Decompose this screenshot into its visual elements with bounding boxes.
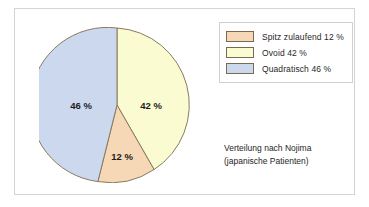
figure-frame: 42 % 12 % 46 % Spitz zulaufend 12 % Ovoi… — [14, 8, 355, 195]
pie-chart: 42 % 12 % 46 % — [39, 27, 195, 183]
legend-label-quadratisch: Quadratisch 46 % — [262, 64, 331, 74]
legend-label-spitz-zulaufend: Spitz zulaufend 12 % — [262, 32, 344, 42]
legend-swatch-icon-ovoid — [226, 47, 254, 58]
caption-line-1: Verteilung nach Nojima — [224, 142, 354, 155]
chart-legend: Spitz zulaufend 12 % Ovoid 42 % Quadrati… — [219, 22, 353, 83]
chart-caption: Verteilung nach Nojima (japanische Patie… — [224, 142, 354, 168]
pie-label-spitz-zulaufend: 12 % — [111, 151, 133, 162]
legend-item-ovoid: Ovoid 42 % — [226, 45, 347, 60]
legend-swatch-icon-quadratisch — [226, 63, 254, 74]
legend-item-quadratisch: Quadratisch 46 % — [226, 61, 347, 76]
legend-item-spitz-zulaufend: Spitz zulaufend 12 % — [226, 29, 347, 44]
pie-label-ovoid: 42 % — [140, 100, 162, 111]
caption-line-2: (japanische Patienten) — [224, 155, 354, 168]
legend-swatch-icon-spitz-zulaufend — [226, 31, 254, 42]
legend-label-ovoid: Ovoid 42 % — [262, 48, 307, 58]
pie-label-quadratisch: 46 % — [70, 100, 92, 111]
